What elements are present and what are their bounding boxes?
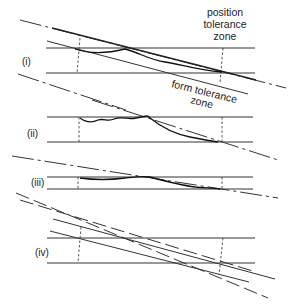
- panel-iii: (iii): [12, 156, 278, 198]
- datum-right-dotted: [220, 48, 223, 83]
- datum-right-dotted: [219, 238, 223, 275]
- position-zone-label-line3: zone: [214, 30, 237, 42]
- panel-label-i: (i): [22, 56, 31, 67]
- dash-line-a: [16, 193, 268, 298]
- panel-label-iii: (iii): [31, 177, 44, 188]
- panel-iv: (iv): [16, 193, 275, 298]
- panel-ii: (ii): [27, 100, 278, 160]
- slant-line-lower: [50, 231, 249, 282]
- dash-line-b: [20, 200, 256, 272]
- form-zone-lower-line: [47, 41, 248, 94]
- panel-label-iv: (iv): [35, 247, 49, 258]
- tolerance-zone-diagram: (i) position tolerance zone form toleran…: [0, 0, 291, 308]
- position-zone-label-line1: position: [207, 6, 243, 18]
- datum-left-dotted: [78, 227, 81, 263]
- slant-line-upper: [53, 219, 275, 279]
- measured-profile: [80, 116, 218, 142]
- panel-i: (i) position tolerance zone form toleran…: [18, 6, 286, 110]
- lower-dash-line: [18, 74, 126, 110]
- measured-profile: [80, 177, 220, 189]
- datum-left-dotted: [77, 38, 80, 74]
- position-zone-label-line2: tolerance: [203, 18, 246, 30]
- tangent-dash-line: [92, 100, 278, 160]
- panel-label-ii: (ii): [27, 128, 38, 139]
